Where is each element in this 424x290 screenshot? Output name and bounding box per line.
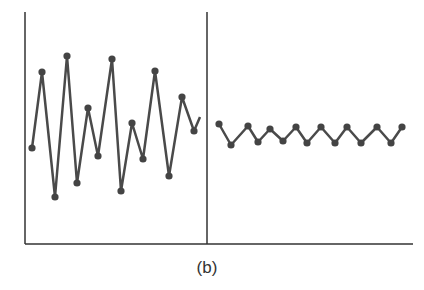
- data-point-marker: [215, 120, 222, 127]
- data-point-marker: [373, 123, 380, 130]
- data-point-marker: [317, 123, 324, 130]
- data-point-marker: [165, 172, 172, 179]
- data-point-marker: [108, 55, 115, 62]
- data-point-marker: [254, 138, 261, 145]
- data-point-marker: [244, 122, 251, 129]
- data-point-marker: [387, 139, 394, 146]
- data-point-marker: [84, 104, 91, 111]
- data-point-marker: [28, 144, 35, 151]
- data-point-marker: [94, 152, 101, 159]
- data-point-marker: [51, 193, 58, 200]
- data-point-marker: [178, 93, 185, 100]
- data-point-marker: [331, 139, 338, 146]
- data-point-marker: [117, 187, 124, 194]
- data-point-marker: [128, 119, 135, 126]
- data-point-marker: [279, 137, 286, 144]
- data-point-marker: [38, 68, 45, 75]
- data-point-marker: [63, 52, 70, 59]
- line-chart: [0, 0, 424, 290]
- data-point-marker: [227, 141, 234, 148]
- data-point-marker: [357, 139, 364, 146]
- data-point-marker: [73, 179, 80, 186]
- data-point-marker: [190, 127, 197, 134]
- data-point-marker: [303, 139, 310, 146]
- data-point-marker: [151, 67, 158, 74]
- data-point-marker: [292, 123, 299, 130]
- data-point-marker: [398, 123, 405, 130]
- series-layer: [28, 52, 405, 200]
- axes: [25, 12, 413, 244]
- data-point-marker: [266, 125, 273, 132]
- data-point-marker: [139, 155, 146, 162]
- left-panel-line: [32, 56, 200, 197]
- data-point-marker: [343, 123, 350, 130]
- figure-caption: (b): [0, 258, 414, 278]
